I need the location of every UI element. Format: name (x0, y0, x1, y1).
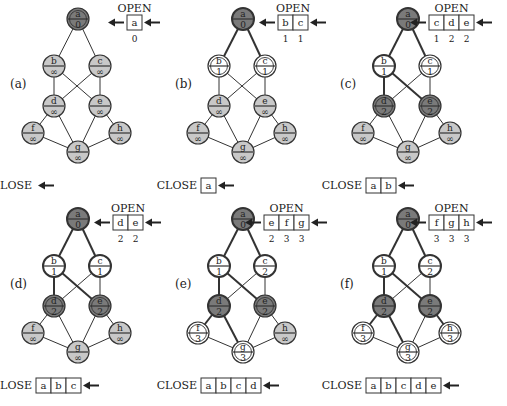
close-title: CLOSE (157, 179, 197, 192)
close-list: CLOSEabcd (157, 378, 279, 393)
node-g: g∞ (397, 141, 419, 163)
node-cost: ∞ (74, 153, 82, 163)
search-diagram: (a)a0b∞c∞d∞e∞f∞g∞h∞OPENa0CLOSE(b)a0b1c1d… (0, 0, 507, 406)
node-name: a (75, 9, 81, 19)
close-cell-value: b (55, 380, 61, 391)
node-e: e2 (419, 95, 441, 117)
node-a: a0 (397, 208, 419, 230)
open-list: OPENd2e2 (94, 202, 161, 244)
node-h: h∞ (439, 122, 461, 144)
node-name: c (427, 56, 432, 66)
close-cell-value: a (41, 380, 47, 391)
node-cost: 2 (381, 107, 387, 117)
node-name: d (216, 96, 222, 106)
node-cost: ∞ (281, 134, 289, 144)
close-list: CLOSE (0, 179, 54, 192)
node-b: b1 (43, 255, 65, 277)
node-cost: 0 (405, 220, 411, 230)
node-cost: 3 (405, 353, 411, 363)
close-cell-value: b (385, 180, 391, 191)
node-cost: ∞ (261, 107, 269, 117)
node-a: a0 (67, 208, 89, 230)
panel-label: (d) (10, 277, 27, 291)
node-cost: 2 (262, 307, 268, 317)
open-list: OPENa0 (108, 2, 160, 44)
node-cost: ∞ (116, 134, 124, 144)
node-cost: ∞ (29, 134, 37, 144)
node-c: c1 (419, 55, 441, 77)
node-cost: ∞ (281, 334, 289, 344)
node-name: d (51, 96, 57, 106)
close-list: CLOSEabcde (322, 378, 459, 393)
node-name: b (216, 56, 222, 66)
open-cell-value: g (448, 217, 455, 228)
node-name: h (117, 123, 123, 133)
node-cost: 0 (240, 220, 246, 230)
node-cost: 3 (447, 334, 453, 344)
node-name: a (405, 9, 411, 19)
node-name: h (117, 323, 123, 333)
node-cost: 2 (427, 307, 433, 317)
open-cell-cost: 3 (434, 234, 440, 244)
close-cell-value: c (401, 380, 407, 391)
node-f: f∞ (187, 122, 209, 144)
node-c: c2 (254, 255, 276, 277)
node-cost: ∞ (116, 334, 124, 344)
node-d: d2 (208, 295, 230, 317)
close-cell-value: a (371, 180, 377, 191)
node-cost: ∞ (239, 153, 247, 163)
node-h: h∞ (109, 322, 131, 344)
open-cell-value: c (298, 17, 304, 28)
node-e: e2 (419, 295, 441, 317)
close-cell-value: e (431, 380, 437, 391)
node-name: c (427, 256, 432, 266)
node-name: e (427, 96, 432, 106)
open-cell-cost: 0 (132, 34, 138, 44)
open-title: OPEN (434, 2, 468, 15)
node-d: d2 (43, 295, 65, 317)
panel-label: (b) (175, 77, 192, 91)
node-e: e2 (254, 295, 276, 317)
node-cost: 0 (75, 220, 81, 230)
node-g: g∞ (67, 141, 89, 163)
open-cell-value: d (117, 217, 124, 228)
open-cell-value: d (448, 17, 455, 28)
node-cost: 0 (75, 20, 81, 30)
node-cost: ∞ (215, 107, 223, 117)
close-title: CLOSE (322, 379, 362, 392)
node-name: g (75, 342, 81, 352)
panel-label: (c) (340, 77, 356, 91)
node-d: d2 (373, 95, 395, 117)
node-cost: 2 (427, 107, 433, 117)
open-cell-value: b (282, 17, 288, 28)
open-cell-cost: 3 (299, 234, 305, 244)
open-cell-cost: 1 (283, 34, 289, 44)
node-name: g (405, 342, 411, 352)
node-cost: ∞ (446, 134, 454, 144)
open-cell-cost: 2 (449, 34, 455, 44)
node-c: c1 (254, 55, 276, 77)
node-f: f3 (352, 322, 374, 344)
node-name: e (97, 296, 102, 306)
node-e: e∞ (254, 95, 276, 117)
close-cell-value: d (415, 380, 422, 391)
open-cell-value: h (463, 217, 470, 228)
close-cell-value: b (385, 380, 391, 391)
node-e: e∞ (89, 95, 111, 117)
open-list: OPENc1d2e2 (410, 2, 492, 44)
node-d: d∞ (208, 95, 230, 117)
node-name: g (240, 342, 246, 352)
node-cost: ∞ (74, 353, 82, 363)
node-h: h3 (439, 322, 461, 344)
node-name: g (75, 142, 81, 152)
node-name: a (240, 209, 246, 219)
panel-a: (a)a0b∞c∞d∞e∞f∞g∞h∞OPENa0CLOSE (0, 2, 160, 192)
close-cell-value: b (220, 380, 226, 391)
open-title: OPEN (269, 202, 303, 215)
panel-d: (d)a0b1c1d2e2f∞g∞h∞OPENd2e2CLOSEabc (0, 202, 161, 393)
node-f: f∞ (22, 322, 44, 344)
node-name: e (427, 296, 432, 306)
open-cell-cost: 3 (464, 234, 470, 244)
node-name: a (240, 9, 246, 19)
close-cell-value: a (371, 380, 377, 391)
